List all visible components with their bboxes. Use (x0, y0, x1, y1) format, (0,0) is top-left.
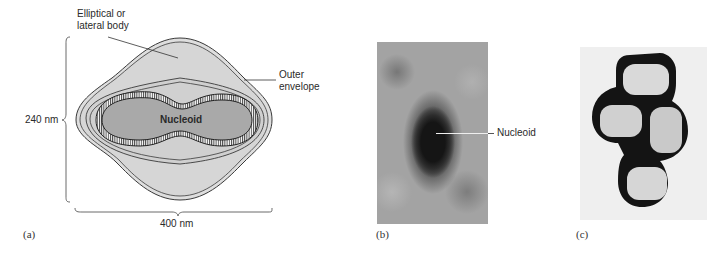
outer-envelope-label: Outer envelope (279, 69, 320, 93)
outer-envelope-label-line1: Outer (279, 69, 320, 81)
micrograph-c (580, 47, 707, 220)
nucleoid-leader-b-ext (488, 133, 494, 134)
width-brace (75, 208, 272, 216)
width-dimension-label: 400 nm (160, 218, 193, 230)
panel-label-b: (b) (376, 228, 389, 240)
height-dimension-label: 240 nm (25, 114, 58, 126)
virion-right (650, 107, 682, 153)
nucleoid-leader-b (436, 133, 488, 134)
lateral-body-label: Elliptical or lateral body (77, 8, 129, 32)
height-brace (62, 37, 70, 202)
lateral-body-label-line2: lateral body (77, 20, 129, 32)
panel-label-a: (a) (23, 228, 35, 240)
nucleoid-label: Nucleoid (160, 114, 202, 126)
virion-bottom (627, 167, 667, 200)
virion-left (600, 105, 642, 137)
panel-label-c: (c) (576, 228, 588, 240)
virion-top (623, 64, 669, 95)
lateral-body-label-line1: Elliptical or (77, 8, 129, 20)
nucleoid-label-b: Nucleoid (497, 127, 536, 139)
outer-envelope-label-line2: envelope (279, 81, 320, 93)
